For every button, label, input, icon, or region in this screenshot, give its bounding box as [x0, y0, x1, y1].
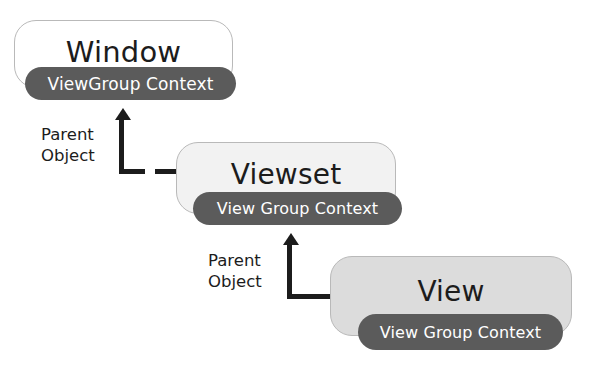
- connector-elbow-horizontal: [119, 169, 145, 174]
- connector-label-parent-object-2: Parent Object: [208, 250, 262, 292]
- node-window-context-pill[interactable]: ViewGroup Context: [25, 67, 236, 100]
- connector-label-line2: Object: [208, 271, 262, 292]
- node-window-context-label: ViewGroup Context: [48, 74, 214, 94]
- diagram-canvas: Parent Object Parent Object View View Gr…: [0, 0, 591, 371]
- node-window-title: Window: [15, 35, 232, 69]
- connector-label-parent-object-1: Parent Object: [41, 124, 95, 166]
- node-view-context-pill[interactable]: View Group Context: [358, 314, 563, 350]
- node-view-title: View: [331, 275, 571, 308]
- node-view-context-label: View Group Context: [380, 323, 541, 342]
- node-viewset-context-pill[interactable]: View Group Context: [193, 192, 402, 225]
- connector-label-line2: Object: [41, 145, 95, 166]
- connector-label-line1: Parent: [208, 250, 262, 271]
- connector-vertical-shaft: [287, 244, 292, 283]
- node-viewset-context-label: View Group Context: [217, 199, 378, 218]
- node-viewset-title: Viewset: [177, 158, 395, 191]
- connector-label-line1: Parent: [41, 124, 95, 145]
- connector-vertical-shaft: [119, 119, 124, 158]
